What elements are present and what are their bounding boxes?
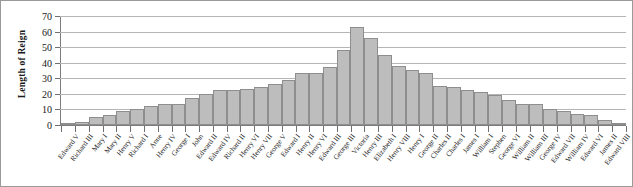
bar-cell: [61, 16, 75, 125]
bar: [557, 111, 571, 125]
bar: [282, 80, 296, 125]
bar-cell: [309, 16, 323, 125]
bar-cell: [75, 16, 89, 125]
bar-cell: [392, 16, 406, 125]
y-axis-tick-label: 10: [42, 104, 52, 115]
y-axis-tick: [55, 16, 60, 17]
bar-cell: [295, 16, 309, 125]
bar: [474, 92, 488, 125]
bar-cell: [282, 16, 296, 125]
bar-series: [61, 16, 626, 125]
bar-cell: [240, 16, 254, 125]
bar-cell: [488, 16, 502, 125]
bar: [103, 115, 117, 124]
bar: [584, 115, 598, 124]
bar: [598, 120, 612, 125]
y-axis-tick-label: 50: [42, 42, 52, 53]
bar: [130, 109, 144, 125]
bar: [543, 109, 557, 125]
bar: [158, 104, 172, 124]
bar-cell: [130, 16, 144, 125]
bar: [268, 84, 282, 124]
y-axis-tick-label: 60: [42, 26, 52, 37]
bar-cell: [254, 16, 268, 125]
bar: [254, 87, 268, 124]
bar: [571, 114, 585, 125]
bar-cell: [571, 16, 585, 125]
bar-cell: [474, 16, 488, 125]
bar-cell: [461, 16, 475, 125]
bar: [419, 73, 433, 124]
bar-cell: [116, 16, 130, 125]
bar-cell: [323, 16, 337, 125]
bar: [337, 50, 351, 124]
y-axis-tick: [55, 32, 60, 33]
bar: [461, 90, 475, 124]
y-axis-tick-label: 70: [42, 11, 52, 22]
bar-cell: [612, 16, 626, 125]
bar: [364, 38, 378, 125]
bar: [392, 66, 406, 125]
bar: [199, 94, 213, 125]
bar-cell: [103, 16, 117, 125]
bar-cell: [543, 16, 557, 125]
bar-cell: [350, 16, 364, 125]
bar-cell: [529, 16, 543, 125]
bar: [433, 86, 447, 125]
bar-cell: [268, 16, 282, 125]
bar: [309, 73, 323, 124]
bar: [116, 111, 130, 125]
bar: [240, 89, 254, 125]
bar-cell: [447, 16, 461, 125]
bar-cell: [378, 16, 392, 125]
bar: [227, 90, 241, 124]
x-axis-labels: Edward VRichard IIIMary IMary IIHenry VR…: [60, 132, 626, 187]
x-axis-tick: [626, 126, 627, 132]
bar-cell: [502, 16, 516, 125]
bar-cell: [158, 16, 172, 125]
bar: [612, 123, 626, 125]
bar-cell: [584, 16, 598, 125]
y-axis-tick-label: 30: [42, 73, 52, 84]
bar: [516, 104, 530, 124]
bar-cell: [557, 16, 571, 125]
bar-cell: [227, 16, 241, 125]
bar: [502, 100, 516, 125]
y-axis-title: Length of Reign: [17, 9, 31, 119]
bar: [185, 98, 199, 124]
y-axis-tick: [55, 63, 60, 64]
bar: [350, 27, 364, 125]
bar-cell: [89, 16, 103, 125]
plot-area: 010203040506070: [60, 16, 626, 126]
bar: [447, 87, 461, 124]
y-axis-tick: [55, 109, 60, 110]
bar-cell: [172, 16, 186, 125]
y-axis-tick: [55, 47, 60, 48]
y-axis-tick-label: 20: [42, 88, 52, 99]
bar-cell: [364, 16, 378, 125]
bar-cell: [598, 16, 612, 125]
bar: [488, 95, 502, 124]
bar: [406, 70, 420, 124]
bar: [61, 123, 75, 125]
y-axis-tick: [55, 78, 60, 79]
bar-cell: [199, 16, 213, 125]
bar-cell: [406, 16, 420, 125]
bar-cell: [337, 16, 351, 125]
bar: [295, 73, 309, 124]
bar: [144, 106, 158, 125]
y-axis-tick: [55, 94, 60, 95]
y-axis-tick-label: 0: [47, 119, 52, 130]
bar-cell: [144, 16, 158, 125]
bar: [172, 104, 186, 124]
bar-cell: [516, 16, 530, 125]
bar-cell: [213, 16, 227, 125]
bar: [378, 55, 392, 125]
bar-chart-figure: Length of Reign 010203040506070 Edward V…: [0, 0, 633, 187]
bar: [213, 90, 227, 124]
bar: [75, 122, 89, 125]
bar: [323, 67, 337, 124]
bar: [529, 104, 543, 124]
bar-cell: [419, 16, 433, 125]
bar-cell: [433, 16, 447, 125]
